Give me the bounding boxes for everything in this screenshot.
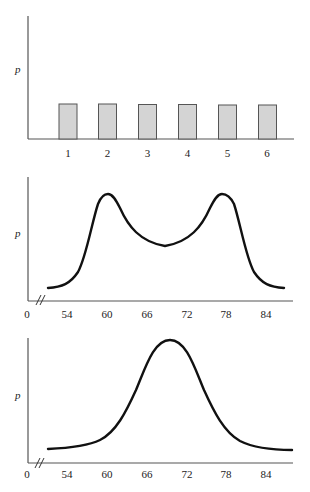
tick-label: 2 — [105, 147, 111, 159]
y-axis-label: p — [14, 63, 21, 75]
tick-label: 60 — [102, 468, 114, 480]
bar-2 — [99, 104, 117, 139]
bimodal-density-curve — [48, 194, 284, 288]
tick-label: 6 — [264, 147, 270, 159]
tick-label: 54 — [62, 308, 74, 320]
tick-label: 84 — [261, 468, 273, 480]
x-tick-labels: 0 54 60 66 72 78 84 — [24, 468, 272, 480]
normal-density-curve — [48, 340, 292, 450]
y-axis-label: p — [14, 227, 21, 239]
x-tick-labels: 0 54 60 66 72 78 84 — [24, 308, 272, 320]
normal-curve-chart: p 0 54 60 66 72 78 84 — [0, 325, 310, 492]
bar-1 — [59, 104, 77, 139]
tick-label: 0 — [24, 468, 30, 480]
tick-label: 72 — [182, 308, 193, 320]
tick-label: 4 — [185, 147, 191, 159]
bars — [59, 104, 277, 139]
bimodal-curve-chart: p 0 54 60 66 72 78 84 — [0, 165, 310, 325]
tick-label: 5 — [225, 147, 231, 159]
axis-break-icon — [36, 295, 45, 305]
y-axis-label: p — [14, 389, 21, 401]
tick-label: 66 — [142, 308, 154, 320]
bar-4 — [179, 105, 197, 140]
x-tick-labels: 1 2 3 4 5 6 — [65, 147, 270, 159]
bimodal-chart-canvas: p 0 54 60 66 72 78 84 — [0, 165, 310, 325]
tick-label: 66 — [142, 468, 154, 480]
tick-label: 84 — [261, 308, 273, 320]
bar-3 — [139, 105, 157, 140]
bar-6 — [259, 105, 277, 139]
tick-label: 0 — [24, 308, 30, 320]
bar-5 — [219, 105, 237, 139]
tick-label: 54 — [62, 468, 74, 480]
tick-label: 3 — [145, 147, 151, 159]
uniform-bar-chart: p 1 2 3 4 5 6 — [0, 0, 310, 165]
tick-label: 1 — [65, 147, 71, 159]
bar-chart-canvas: p 1 2 3 4 5 6 — [0, 0, 310, 165]
tick-label: 78 — [221, 308, 233, 320]
tick-label: 78 — [221, 468, 233, 480]
tick-label: 72 — [182, 468, 193, 480]
normal-chart-canvas: p 0 54 60 66 72 78 84 — [0, 325, 310, 492]
tick-label: 60 — [102, 308, 114, 320]
